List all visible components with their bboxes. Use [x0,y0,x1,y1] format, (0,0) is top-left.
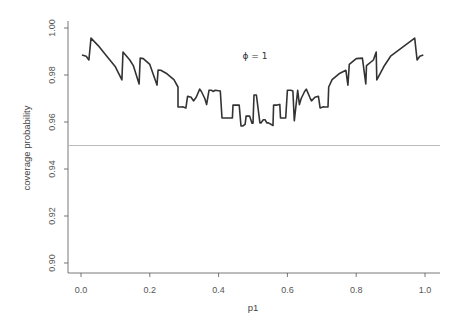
coverage-chart: 0.900.920.940.960.981.00 0.00.20.40.60.8… [0,0,461,333]
y-tick-label: 0.94 [47,160,57,178]
x-ticks: 0.00.20.40.60.81.0 [75,273,432,295]
x-tick-label: 0.4 [212,285,225,295]
y-tick-label: 0.90 [47,254,57,272]
y-tick-label: 1.00 [47,19,57,37]
x-tick-label: 1.0 [419,285,432,295]
x-axis-title: p1 [248,302,259,313]
phi-annotation: ϕ = 1 [243,51,268,61]
x-tick-label: 0.2 [144,285,157,295]
x-tick-label: 0.8 [350,285,363,295]
y-tick-label: 0.92 [47,207,57,225]
y-tick-label: 0.98 [47,66,57,84]
x-tick-label: 0.0 [75,285,88,295]
y-axis-title: coverage probability [21,105,32,190]
y-tick-label: 0.96 [47,113,57,131]
x-tick-label: 0.6 [281,285,294,295]
y-ticks: 0.900.920.940.960.981.00 [47,19,68,272]
